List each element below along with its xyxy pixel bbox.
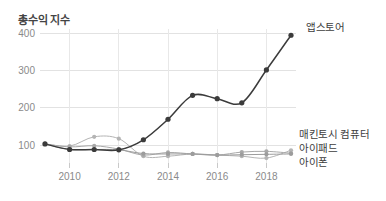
data-point-앱스토어-2009 bbox=[42, 141, 47, 146]
x-axis-tick-2018: 2018 bbox=[255, 171, 278, 182]
y-axis-tick-300: 300 bbox=[18, 65, 35, 76]
revenue-index-chart: 총수익 지수 100200300400 20102012201420162018… bbox=[0, 0, 386, 201]
data-point-아이폰-2016 bbox=[215, 153, 219, 157]
data-point-아이폰-2013 bbox=[141, 151, 145, 155]
y-axis-labels-group: 100200300400 bbox=[18, 28, 35, 151]
data-point-앱스토어-2019 bbox=[288, 33, 293, 38]
data-point-아이폰-2017 bbox=[240, 153, 244, 157]
data-point-아이폰-2019 bbox=[289, 152, 293, 156]
data-point-앱스토어-2014 bbox=[165, 117, 170, 122]
y-axis-tick-400: 400 bbox=[18, 28, 35, 39]
series-label-appstore: 앱스토어 bbox=[306, 21, 345, 33]
series-label-iphone: 아이폰 bbox=[299, 156, 328, 168]
series-label-mac: 매킨토시 컴퓨터 bbox=[299, 128, 370, 140]
data-point-앱스토어-2012 bbox=[116, 147, 121, 152]
data-point-앱스토어-2013 bbox=[141, 137, 146, 142]
data-point-매킨토시-컴퓨터-2012 bbox=[117, 137, 121, 141]
x-axis-tick-2016: 2016 bbox=[206, 171, 229, 182]
series-label-ipad: 아이패드 bbox=[299, 142, 338, 154]
x-axis-tick-2014: 2014 bbox=[157, 171, 180, 182]
data-point-매킨토시-컴퓨터-2018 bbox=[264, 156, 268, 160]
data-point-앱스토어-2016 bbox=[215, 96, 220, 101]
data-point-아이폰-2015 bbox=[191, 152, 195, 156]
data-point-앱스토어-2010 bbox=[67, 147, 72, 152]
y-axis-tick-200: 200 bbox=[18, 102, 35, 113]
data-point-앱스토어-2017 bbox=[239, 100, 244, 105]
data-point-매킨토시-컴퓨터-2011 bbox=[92, 135, 96, 139]
data-point-앱스토어-2015 bbox=[190, 93, 195, 98]
data-point-앱스토어-2018 bbox=[264, 67, 269, 72]
x-axis-tick-2012: 2012 bbox=[108, 171, 131, 182]
data-point-앱스토어-2011 bbox=[92, 147, 97, 152]
data-point-아이폰-2014 bbox=[166, 152, 170, 156]
data-point-아이폰-2018 bbox=[264, 152, 268, 156]
tickmarks-group bbox=[70, 163, 267, 168]
x-axis-tick-2010: 2010 bbox=[58, 171, 81, 182]
x-axis-labels-group: 20102012201420162018 bbox=[58, 171, 277, 182]
vertical-gridlines-group bbox=[70, 29, 267, 163]
y-axis-tick-100: 100 bbox=[18, 140, 35, 151]
